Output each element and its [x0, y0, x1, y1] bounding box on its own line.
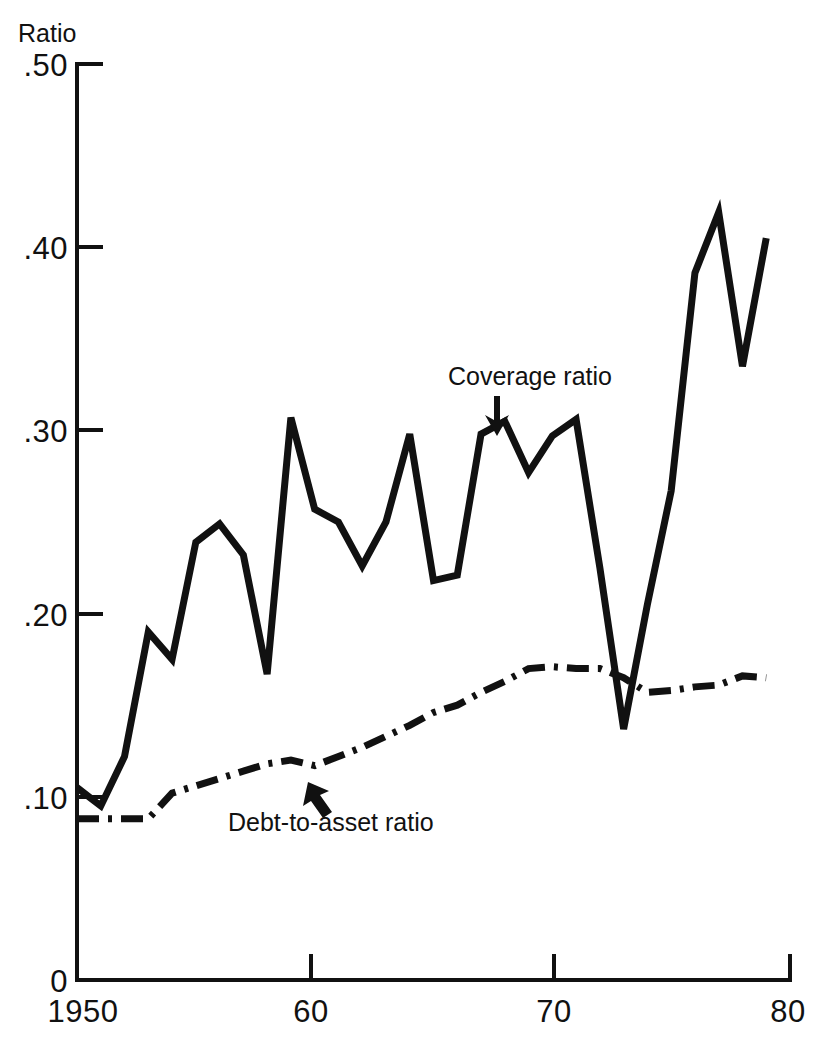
y-tick-label-050: .50 — [23, 48, 68, 83]
axis-lines — [77, 64, 790, 980]
x-tick-label-60: 60 — [293, 994, 328, 1029]
y-axis-title: Ratio — [18, 19, 76, 47]
annotation-label-coverage-ratio: Coverage ratio — [448, 362, 612, 390]
annotation-coverage-ratio: Coverage ratio — [448, 362, 612, 436]
x-axis-tick-labels: 1950 60 70 80 — [48, 994, 806, 1029]
x-axis-ticks — [311, 954, 790, 980]
x-tick-label-1950: 1950 — [48, 994, 119, 1029]
y-axis-ticks — [77, 64, 103, 797]
y-tick-label-020: .20 — [23, 598, 68, 633]
y-tick-label-040: .40 — [23, 231, 68, 266]
annotation-debt-to-asset-ratio: Debt-to-asset ratio — [228, 782, 434, 836]
y-tick-label-010: .10 — [23, 781, 68, 816]
x-tick-label-70: 70 — [536, 994, 571, 1029]
x-tick-label-80: 80 — [770, 994, 805, 1029]
chart-plot-area: Ratio .50 .40 .30 .20 .10 0 1950 — [0, 0, 822, 1042]
y-tick-label-030: .30 — [23, 414, 68, 449]
y-axis-tick-labels: .50 .40 .30 .20 .10 0 — [23, 48, 68, 999]
chart-figure: Ratio .50 .40 .30 .20 .10 0 1950 — [0, 0, 822, 1042]
series-line-debt-to-asset-ratio — [77, 667, 766, 819]
